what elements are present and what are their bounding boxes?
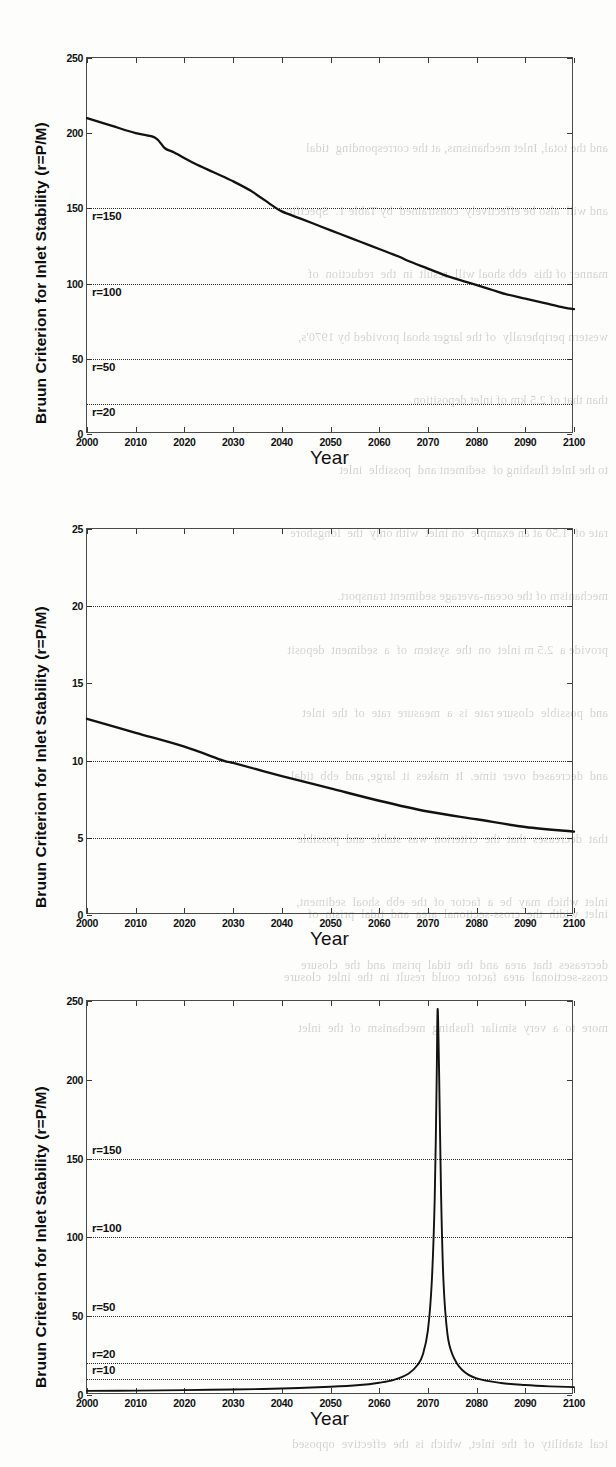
x-axis-tick-mark bbox=[574, 1001, 575, 1006]
plot-area: 0510152025200020102020203020402050206020… bbox=[86, 528, 573, 914]
y-axis-tick-label: 250 bbox=[66, 995, 83, 1007]
y-axis-tick-label: 15 bbox=[72, 677, 83, 689]
x-axis-tick-mark bbox=[574, 529, 575, 534]
y-axis-tick-label: 20 bbox=[72, 600, 83, 612]
y-axis-tick-label: 50 bbox=[72, 353, 83, 365]
series-path bbox=[87, 118, 574, 309]
y-axis-tick-label: 5 bbox=[77, 832, 83, 844]
y-axis-title: Bruun Criterion for Inlet Stability (r=P… bbox=[32, 1086, 50, 1388]
y-axis-tick-label: 25 bbox=[72, 523, 83, 535]
y-axis-tick-label: 150 bbox=[66, 202, 83, 214]
y-axis-tick-mark bbox=[567, 1395, 572, 1396]
x-axis-tick-mark bbox=[574, 908, 575, 913]
series-path bbox=[87, 719, 574, 832]
x-axis-title: Year bbox=[86, 928, 573, 950]
bleed-line: cross-sectional area factor could result… bbox=[0, 967, 616, 988]
y-axis-tick-label: 150 bbox=[66, 1153, 83, 1165]
y-axis-title: Bruun Criterion for Inlet Stability (r=P… bbox=[32, 606, 50, 908]
plot-area: 0501001502002502000201020202030204020502… bbox=[86, 1000, 573, 1394]
y-axis-tick-mark bbox=[87, 434, 92, 435]
x-axis-tick-mark bbox=[574, 1388, 575, 1393]
y-axis-tick-label: 250 bbox=[66, 52, 83, 64]
y-axis-tick-mark bbox=[567, 434, 572, 435]
y-axis-tick-label: 10 bbox=[72, 755, 83, 767]
x-axis-title: Year bbox=[86, 1408, 573, 1430]
data-series-line bbox=[87, 1001, 574, 1395]
y-axis-tick-label: 100 bbox=[66, 1231, 83, 1243]
y-axis-title: Bruun Criterion for Inlet Stability (r=P… bbox=[32, 122, 50, 424]
data-series-line bbox=[87, 58, 574, 434]
y-axis-tick-mark bbox=[87, 1395, 92, 1396]
y-axis-tick-label: 50 bbox=[72, 1310, 83, 1322]
series-path bbox=[87, 1009, 574, 1391]
y-axis-tick-label: 100 bbox=[66, 278, 83, 290]
x-axis-title: Year bbox=[86, 447, 573, 469]
y-axis-tick-label: 200 bbox=[66, 1074, 83, 1086]
y-axis-tick-label: 200 bbox=[66, 127, 83, 139]
y-axis-tick-mark bbox=[567, 915, 572, 916]
plot-area: 0501001502002502000201020202030204020502… bbox=[86, 57, 573, 433]
bleed-line: ical stability of the inlet, which is th… bbox=[0, 1434, 616, 1455]
bleed-line: decreases that area and the tidal prism … bbox=[0, 955, 616, 976]
y-axis-tick-mark bbox=[87, 915, 92, 916]
x-axis-tick-mark bbox=[574, 427, 575, 432]
data-series-line bbox=[87, 529, 574, 915]
x-axis-tick-mark bbox=[574, 58, 575, 63]
